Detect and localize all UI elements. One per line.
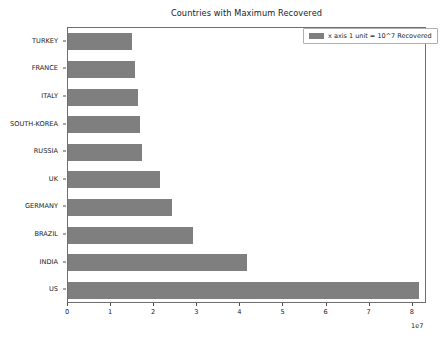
x-tick-label-6: 6: [323, 308, 327, 316]
x-tick-mark: [196, 303, 197, 306]
x-tick-mark: [282, 303, 283, 306]
x-tick-mark: [110, 303, 111, 306]
chart-title: Countries with Maximum Recovered: [67, 8, 426, 18]
x-tick-label-7: 7: [367, 308, 371, 316]
bar-brazil: [68, 227, 193, 244]
bar-italy: [68, 89, 138, 106]
y-tick-label-russia: RUSSIA: [34, 147, 58, 155]
plot-area: [67, 27, 426, 303]
chart-legend: x axis 1 unit = 10^7 Recovered: [303, 28, 438, 44]
y-tick-mark: [63, 40, 66, 41]
x-axis-offset-label: 1e7: [411, 322, 423, 330]
bar-france: [68, 61, 135, 78]
x-tick-label-2: 2: [151, 308, 155, 316]
x-tick-label-0: 0: [65, 308, 69, 316]
bar-russia: [68, 144, 142, 161]
y-tick-mark: [63, 151, 66, 152]
bar-south-korea: [68, 116, 140, 133]
x-tick-label-1: 1: [108, 308, 112, 316]
x-tick-mark: [153, 303, 154, 306]
y-tick-label-south-korea: SOUTH-KOREA: [10, 120, 58, 128]
y-tick-mark: [63, 234, 66, 235]
y-tick-mark: [63, 261, 66, 262]
x-tick-label-3: 3: [194, 308, 198, 316]
y-tick-label-brazil: BRAZIL: [35, 230, 58, 238]
x-tick-mark: [67, 303, 68, 306]
x-tick-label-8: 8: [410, 308, 414, 316]
y-tick-label-uk: UK: [49, 175, 58, 183]
y-tick-label-france: FRANCE: [32, 64, 58, 72]
bar-germany: [68, 199, 172, 216]
chart-figure: Countries with Maximum Recovered USINDIA…: [0, 0, 447, 345]
y-tick-label-india: INDIA: [40, 258, 58, 266]
x-tick-mark: [412, 303, 413, 306]
x-tick-label-4: 4: [237, 308, 241, 316]
y-tick-mark: [63, 289, 66, 290]
y-tick-label-italy: ITALY: [41, 92, 58, 100]
y-axis: USINDIABRAZILGERMANYUKRUSSIASOUTH-KOREAI…: [0, 27, 63, 303]
y-tick-mark: [63, 68, 66, 69]
y-tick-mark: [63, 96, 66, 97]
bar-uk: [68, 171, 160, 188]
y-tick-mark: [63, 206, 66, 207]
x-tick-mark: [326, 303, 327, 306]
y-tick-mark: [63, 123, 66, 124]
legend-label: x axis 1 unit = 10^7 Recovered: [328, 32, 432, 40]
legend-swatch-icon: [309, 33, 324, 39]
y-tick-label-us: US: [49, 285, 58, 293]
x-axis: 1e7 012345678: [0, 303, 447, 345]
bar-series: [68, 28, 425, 302]
y-tick-label-turkey: TURKEY: [32, 37, 58, 45]
x-tick-mark: [239, 303, 240, 306]
x-tick-mark: [369, 303, 370, 306]
y-tick-mark: [63, 178, 66, 179]
bar-india: [68, 254, 247, 271]
y-tick-label-germany: GERMANY: [25, 202, 58, 210]
bar-turkey: [68, 33, 132, 50]
bar-us: [68, 282, 419, 299]
x-tick-label-5: 5: [280, 308, 284, 316]
